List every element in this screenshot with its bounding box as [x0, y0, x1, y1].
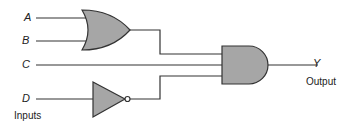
- inputs-caption: Inputs: [14, 111, 41, 121]
- input-label-c: C: [22, 59, 30, 70]
- or-gate: [82, 10, 130, 50]
- and-gate: [222, 46, 268, 84]
- input-label-b: B: [22, 35, 29, 46]
- circuit-diagram: [0, 0, 352, 131]
- input-label-d: D: [22, 93, 30, 104]
- wire-or-to-and: [129, 30, 222, 54]
- not-gate: [93, 82, 125, 117]
- output-caption: Output: [306, 77, 336, 87]
- input-label-a: A: [24, 12, 31, 23]
- output-label-y: Y: [313, 58, 320, 69]
- not-bubble: [125, 97, 130, 102]
- wire-not-to-and: [130, 76, 222, 99]
